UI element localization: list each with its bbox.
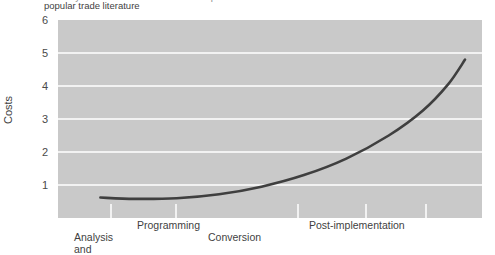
y-tick-6: 6: [14, 14, 48, 26]
x-label-conversion: Conversion: [208, 231, 261, 243]
y-axis-label: Costs: [2, 85, 14, 135]
y-tick-3: 3: [14, 113, 48, 125]
x-label-programming: Programming: [137, 219, 200, 231]
x-label-post-implementation: Post-implementation: [309, 219, 405, 231]
y-tick-4: 4: [14, 80, 48, 92]
cost-curve-line: [58, 20, 482, 218]
y-axis-ticks: 6 5 4 3 2 1: [14, 0, 48, 252]
y-tick-1: 1: [14, 179, 48, 191]
plot-area: [58, 20, 482, 218]
y-tick-2: 2: [14, 146, 48, 158]
y-tick-5: 5: [14, 47, 48, 59]
x-label-analysis: Analysis and: [74, 231, 113, 255]
